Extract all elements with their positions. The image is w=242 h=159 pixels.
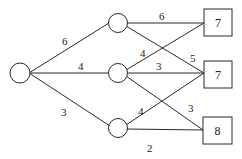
network-diagram: 7 7 8 6 4 3 6 5 4 3 3 4 2 [0, 0, 242, 159]
edge-source-middle3 [29, 73, 110, 126]
sink-2-label: 7 [215, 68, 221, 82]
weight-middle2-sink1: 4 [140, 47, 146, 59]
sink-3-label: 8 [215, 124, 221, 138]
edge-middle3-sink2 [126, 73, 204, 125]
middle-node-2 [109, 64, 128, 83]
source-node [10, 63, 30, 83]
sink-1-label: 7 [215, 16, 221, 30]
edge-middle3-sink3 [127, 129, 203, 130]
weight-source-middle1: 6 [62, 35, 68, 47]
weight-middle1-sink1: 6 [159, 10, 165, 22]
middle-node-3 [109, 119, 128, 138]
middle-node-1 [109, 14, 128, 33]
weight-middle2-sink2: 3 [156, 60, 162, 72]
weight-source-middle3: 3 [61, 106, 67, 118]
edge-middle1-sink2 [126, 26, 204, 73]
weight-middle3-sink3: 2 [147, 142, 153, 154]
weight-middle3-sink2: 4 [138, 105, 144, 117]
edge-source-middle1 [29, 23, 109, 73]
weight-middle2-sink3: 3 [188, 102, 194, 114]
weight-middle1-sink2: 5 [190, 52, 196, 64]
weight-source-middle2: 4 [78, 60, 84, 72]
